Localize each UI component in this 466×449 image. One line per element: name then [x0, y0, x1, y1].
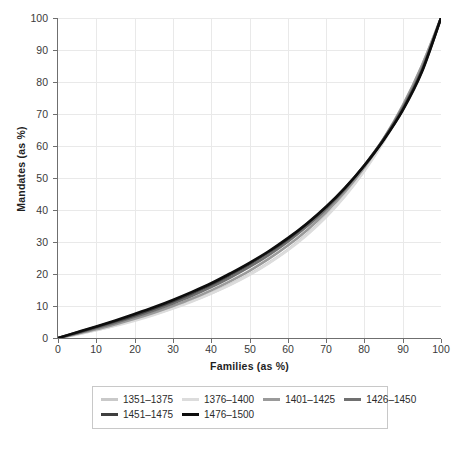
legend-item[interactable]: 1426–1450 — [344, 394, 416, 406]
y-tick-label: 20 — [8, 269, 48, 279]
y-tick-mark — [53, 146, 57, 147]
y-tick-mark — [53, 18, 57, 19]
y-tick-mark — [53, 178, 57, 179]
y-tick-label: 50 — [8, 173, 48, 183]
y-tick-mark — [53, 306, 57, 307]
y-tick-mark — [53, 114, 57, 115]
legend-label: 1451–1475 — [123, 409, 173, 421]
y-tick-label: 100 — [8, 13, 48, 23]
x-tick-label: 20 — [115, 344, 155, 355]
legend-swatch-icon — [344, 398, 361, 401]
y-tick-label: 0 — [8, 333, 48, 343]
legend-swatch-icon — [182, 398, 199, 401]
x-tick-label: 80 — [344, 344, 384, 355]
x-tick-label: 60 — [268, 344, 308, 355]
x-tick-label: 50 — [230, 344, 270, 355]
chart-figure: 0102030405060708090100 01020304050607080… — [0, 0, 466, 449]
y-tick-mark — [53, 274, 57, 275]
legend-row: 1351–13751376–14001401–14251426–1450 — [101, 392, 379, 407]
legend-label: 1476–1500 — [204, 409, 254, 421]
y-axis-title: Mandates (as %) — [15, 79, 27, 259]
y-tick-label: 70 — [8, 109, 48, 119]
y-tick-label: 40 — [8, 205, 48, 215]
legend-row: 1451–14751476–1500 — [101, 407, 379, 422]
y-tick-label: 90 — [8, 45, 48, 55]
y-tick-mark — [53, 338, 57, 339]
x-axis-title: Families (as %) — [58, 360, 441, 372]
legend-label: 1401–1425 — [285, 394, 335, 406]
legend-label: 1426–1450 — [366, 394, 416, 406]
legend-item[interactable]: 1351–1375 — [101, 394, 173, 406]
y-tick-mark — [53, 210, 57, 211]
legend-swatch-icon — [263, 398, 280, 401]
y-axis-line — [57, 18, 58, 339]
y-tick-label: 80 — [8, 77, 48, 87]
x-tick-label: 30 — [153, 344, 193, 355]
x-tick-label: 10 — [76, 344, 116, 355]
x-tick-label: 90 — [383, 344, 423, 355]
legend-item[interactable]: 1376–1400 — [182, 394, 254, 406]
x-tick-label: 100 — [421, 344, 461, 355]
y-tick-mark — [53, 50, 57, 51]
y-tick-label: 30 — [8, 237, 48, 247]
legend-label: 1376–1400 — [204, 394, 254, 406]
legend-swatch-icon — [101, 398, 118, 401]
y-tick-mark — [53, 82, 57, 83]
legend-item[interactable]: 1451–1475 — [101, 409, 173, 421]
y-tick-label: 10 — [8, 301, 48, 311]
chart-legend: 1351–13751376–14001401–14251426–14501451… — [92, 386, 388, 429]
x-tick-label: 40 — [191, 344, 231, 355]
legend-item[interactable]: 1401–1425 — [263, 394, 335, 406]
legend-label: 1351–1375 — [123, 394, 173, 406]
gridlines — [58, 18, 441, 338]
plot-svg — [58, 18, 441, 338]
legend-item[interactable]: 1476–1500 — [182, 409, 254, 421]
legend-swatch-icon — [101, 413, 118, 416]
y-tick-label: 60 — [8, 141, 48, 151]
plot-area — [58, 18, 441, 338]
y-tick-mark — [53, 242, 57, 243]
x-axis-line — [57, 338, 441, 339]
x-tick-label: 70 — [306, 344, 346, 355]
x-tick-label: 0 — [38, 344, 78, 355]
legend-swatch-icon — [182, 413, 199, 416]
